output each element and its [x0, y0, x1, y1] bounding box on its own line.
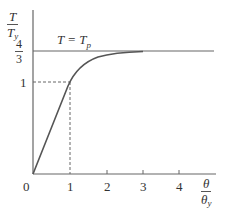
x-axis-label: θ θy	[201, 177, 211, 208]
chart-canvas	[0, 0, 226, 215]
x-tick-label-4: 4	[176, 180, 183, 193]
x-tick-label-3: 3	[140, 180, 147, 193]
origin-label: 0	[23, 180, 30, 193]
x-tick-label-2: 2	[104, 180, 111, 193]
x-axis-label-sub: y	[207, 198, 211, 208]
y-tick-label-1: 1	[20, 76, 27, 89]
y-tick-4-3-denominator: 3	[15, 52, 23, 65]
y-tick-label-4-3: 4 3	[15, 38, 23, 65]
plastic-limit-label-main: T = T	[57, 32, 87, 47]
torque-twist-curve	[33, 52, 143, 175]
plastic-limit-label-sub: p	[87, 40, 92, 50]
x-axis-label-numerator: θ	[201, 177, 211, 192]
x-tick-label-1: 1	[67, 180, 74, 193]
y-axis-label-numerator: T	[7, 10, 18, 25]
y-tick-4-3-numerator: 4	[15, 38, 23, 52]
plastic-limit-label: T = Tp	[57, 33, 91, 50]
